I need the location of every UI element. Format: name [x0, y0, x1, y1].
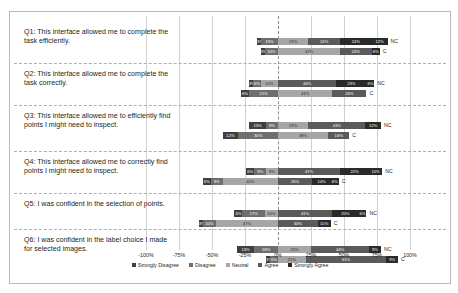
segment-value-label: 6% — [331, 178, 339, 185]
segment-value-label: 9% — [254, 168, 266, 175]
segment-value-label: 12% — [365, 122, 381, 129]
segment-value-label: 6% — [234, 210, 242, 217]
bar-segment: 10% — [203, 220, 216, 227]
segment-value-label: 13% — [261, 38, 278, 45]
x-tick-label: 100% — [395, 252, 425, 258]
series-label-nc: NC — [385, 168, 393, 175]
bar-segment: 10% — [318, 220, 331, 227]
series-label-nc: NC — [384, 122, 392, 129]
segment-value-label: 9% — [266, 122, 278, 129]
segment-value-label: 10% — [203, 220, 216, 227]
segment-value-label: 30% — [238, 132, 278, 139]
bar-segment: 41% — [278, 210, 332, 217]
bar-segment: 9% — [254, 168, 266, 175]
legend-swatch — [132, 263, 136, 267]
segment-value-label: 10% — [265, 210, 278, 217]
bar-segment: 14% — [312, 178, 330, 185]
bar-segment: 6% — [246, 168, 254, 175]
bar-q2-c: 6%22%41%26%C — [10, 90, 450, 97]
x-tick-label: 50% — [329, 252, 359, 258]
bar-segment: 16% — [328, 132, 349, 139]
bar-segment: 22% — [249, 90, 278, 97]
legend-item: Neutral — [226, 261, 249, 268]
segment-value-label: 30% — [278, 220, 318, 227]
segment-value-label: 47% — [278, 48, 340, 55]
legend-swatch — [226, 263, 230, 267]
segment-value-label: 47% — [278, 168, 340, 175]
series-label-c: C — [334, 220, 338, 227]
bar-segment: 20% — [332, 210, 358, 217]
bar-segment: 6% — [253, 80, 261, 87]
bar-segment: 6% — [234, 210, 242, 217]
bar-segment: 9% — [211, 178, 223, 185]
bar-segment: 12% — [223, 132, 239, 139]
segment-value-label: 22% — [249, 90, 278, 97]
bar-segment: 43% — [308, 122, 365, 129]
segment-value-label: 9% — [211, 178, 223, 185]
legend: Strongly DisagreeDisagreeNeutralAgreeStr… — [10, 261, 450, 268]
row-separator — [14, 229, 446, 230]
plot-area: Q1: This interface allowed me to complet… — [10, 12, 450, 283]
bar-segment: 24% — [340, 48, 372, 55]
segment-value-label: 42% — [223, 178, 278, 185]
legend-label: Strongly Agree — [294, 262, 328, 268]
segment-value-label: 10% — [318, 220, 331, 227]
question-label-q5: Q5: I was confident in the selection of … — [24, 200, 174, 209]
bar-segment: 38% — [278, 132, 328, 139]
segment-value-label: 44% — [278, 80, 336, 87]
segment-value-label: 20% — [332, 210, 358, 217]
bar-segment: 10% — [369, 168, 382, 175]
legend-item: Strongly Disagree — [132, 261, 179, 268]
segment-value-label: 38% — [278, 132, 328, 139]
series-label-c: C — [352, 132, 356, 139]
series-label-nc: NC — [369, 210, 377, 217]
segment-value-label: 13% — [261, 80, 278, 87]
x-tick-label: -75% — [164, 252, 194, 258]
bar-segment: 26% — [278, 178, 312, 185]
bar-segment: 23% — [336, 80, 366, 87]
segment-value-label: 23% — [278, 122, 308, 129]
bar-segment: 17% — [242, 210, 264, 217]
bar-segment: 22% — [340, 168, 369, 175]
segment-value-label: 43% — [308, 122, 365, 129]
bar-q1-c: 3%10%47%24%6%C — [10, 48, 450, 55]
series-label-c: C — [342, 178, 346, 185]
segment-value-label: 41% — [278, 90, 332, 97]
segment-value-label: 23% — [278, 38, 308, 45]
legend-label: Agree — [264, 262, 278, 268]
segment-value-label: 6% — [253, 80, 261, 87]
bar-segment: 6% — [203, 178, 211, 185]
bar-segment: 10% — [265, 48, 278, 55]
bar-segment: 47% — [278, 168, 340, 175]
bar-segment: 13% — [261, 80, 278, 87]
bar-segment: 12% — [365, 122, 381, 129]
segment-value-label: 26% — [332, 90, 366, 97]
x-tick-label: -25% — [230, 252, 260, 258]
segment-value-label: 6% — [203, 178, 211, 185]
bar-segment: 41% — [278, 90, 332, 97]
row-separator — [14, 193, 446, 194]
chart-frame: Q1: This interface allowed me to complet… — [9, 11, 451, 284]
bar-segment: 6% — [366, 80, 374, 87]
segment-value-label: 6% — [372, 48, 380, 55]
bar-segment: 26% — [332, 90, 366, 97]
bar-segment: 42% — [223, 178, 278, 185]
segment-value-label: 6% — [359, 210, 367, 217]
segment-value-label: 22% — [340, 168, 369, 175]
segment-value-label: 10% — [369, 168, 382, 175]
series-label-c: C — [383, 48, 387, 55]
segment-value-label: 41% — [278, 210, 332, 217]
legend-swatch — [288, 263, 292, 267]
bar-segment: 9% — [266, 122, 278, 129]
segment-value-label: 17% — [242, 210, 264, 217]
bar-segment: 6% — [331, 178, 339, 185]
series-label-nc: NC — [391, 38, 399, 45]
segment-value-label: 6% — [246, 168, 254, 175]
legend-label: Strongly Disagree — [138, 262, 179, 268]
bar-segment: 24% — [308, 38, 340, 45]
bar-q4-nc: 6%9%9%47%22%10%NC — [10, 168, 450, 175]
row-separator — [14, 63, 446, 64]
bar-segment: 12% — [372, 38, 388, 45]
bar-segment: 30% — [278, 220, 318, 227]
x-tick-label: 75% — [362, 252, 392, 258]
